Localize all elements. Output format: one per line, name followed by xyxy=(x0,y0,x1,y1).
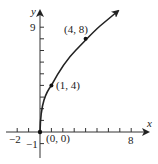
point-label-origin: (0, 0) xyxy=(46,132,70,145)
function-graph: y x 9 −1 −2 8 (0, 0) (1, 4) (4, 8) xyxy=(0,0,158,164)
x-ticks xyxy=(17,128,131,132)
y-axis-label: y xyxy=(30,5,36,17)
x-axis-label: x xyxy=(146,117,152,129)
x-tick-label-neg2: −2 xyxy=(9,133,21,145)
y-tick-label-9: 9 xyxy=(30,21,36,33)
point-label-1-4: (1, 4) xyxy=(56,79,80,92)
y-tick-label-neg1: −1 xyxy=(26,138,38,150)
point-4-8 xyxy=(84,37,88,41)
x-tick-label-8: 8 xyxy=(128,134,134,146)
point-label-4-8: (4, 8) xyxy=(64,23,88,36)
point-origin xyxy=(38,130,42,134)
point-1-4 xyxy=(49,83,53,87)
